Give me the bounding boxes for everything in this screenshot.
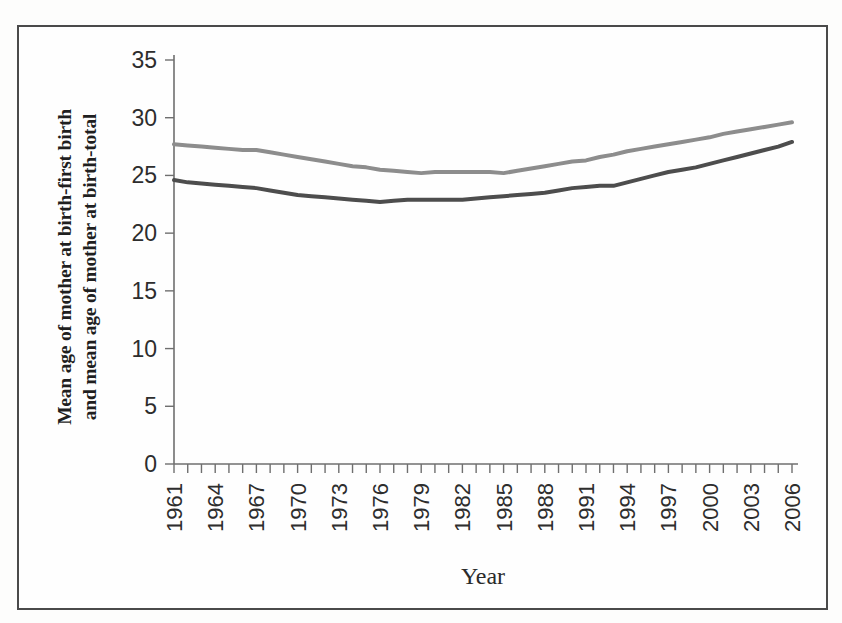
x-tick-label: 1994	[615, 483, 640, 532]
x-tick-label: 2000	[698, 483, 723, 532]
y-tick-label: 30	[131, 105, 157, 131]
x-tick-label: 1976	[368, 483, 393, 532]
scanned-figure-page: Mean age of mother at birth-first birtha…	[0, 0, 842, 623]
x-tick-label: 1988	[533, 483, 558, 532]
y-axis-title: Mean age of mother at birth-first birtha…	[54, 109, 100, 425]
x-tick-label: 2006	[780, 483, 805, 532]
x-tick-label: 1961	[162, 483, 187, 532]
x-tick-label: 1973	[327, 483, 352, 532]
y-tick-label: 20	[131, 220, 157, 246]
x-axis-ticks: 1961196419671970197319761979198219851988…	[162, 464, 805, 532]
line-chart: Mean age of mother at birth-first birtha…	[19, 27, 830, 612]
y-tick-label: 0	[144, 451, 157, 477]
x-tick-label: 1985	[492, 483, 517, 532]
y-axis-ticks: 05101520253035	[131, 47, 174, 477]
y-tick-label: 10	[131, 336, 157, 362]
y-tick-label: 35	[131, 47, 157, 73]
x-tick-label: 1967	[244, 483, 269, 532]
x-tick-label: 1964	[203, 483, 228, 532]
y-axis-title-line-2: and mean age of mother at birth-total	[79, 113, 100, 420]
figure-frame: Mean age of mother at birth-first birtha…	[17, 25, 828, 610]
axis-lines	[174, 55, 798, 464]
x-axis-title: Year	[461, 563, 505, 589]
x-tick-label: 1997	[656, 483, 681, 532]
x-tick-label: 1991	[574, 483, 599, 532]
y-tick-label: 5	[144, 393, 157, 419]
x-tick-label: 1970	[286, 483, 311, 532]
y-tick-label: 15	[131, 278, 157, 304]
x-tick-label: 2003	[739, 483, 764, 532]
x-tick-label: 1982	[450, 483, 475, 532]
x-axis-title-text: Year	[461, 563, 505, 589]
chart-svg: Mean age of mother at birth-first birtha…	[19, 27, 830, 612]
y-axis-title-line-1: Mean age of mother at birth-first birth	[54, 109, 75, 425]
x-tick-label: 1979	[409, 483, 434, 532]
data-series	[174, 122, 792, 202]
y-tick-label: 25	[131, 162, 157, 188]
